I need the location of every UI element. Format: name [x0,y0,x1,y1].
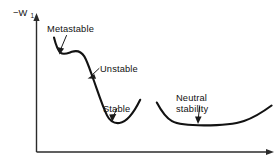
metastable-leader-line [61,36,67,50]
y-axis-label-subscript: 1 [31,12,35,19]
energy-curve-neutral [157,103,272,126]
unstable-leader-line [93,69,100,75]
stable-label: Stable [103,104,130,114]
y-axis-arrow-icon [33,13,39,21]
curves-group [54,38,272,126]
x-axis-arrow-icon [266,149,274,155]
metastable-label: Metastable [47,24,94,34]
y-axis-label-group: −W 1 [13,8,35,19]
unstable-label: Unstable [100,64,138,74]
annotation-labels-group: Metastable Unstable Stable Neutral stabi… [47,24,209,114]
figure-canvas: −W 1 Metastable Unstable Stable Neutral … [0,0,280,166]
stability-diagram-figure: −W 1 Metastable Unstable Stable Neutral … [0,0,280,166]
axes-group [33,13,274,155]
neutral-stability-label-line2: stability [176,104,209,114]
neutral-stability-label-line1: Neutral [176,93,207,103]
neutral-stability-arrow-icon [195,116,202,124]
y-axis-label: −W [13,8,27,18]
